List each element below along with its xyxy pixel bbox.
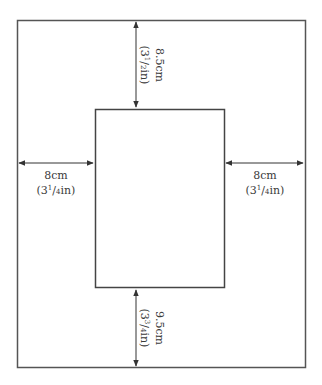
left-margin-label: 8cm (31/4in) (21, 168, 91, 198)
right-imperial: (31/4in) (230, 183, 300, 198)
top-imperial: (31/2in) (137, 30, 152, 100)
bottom-imperial: (33/4in) (137, 293, 152, 363)
right-margin-label: 8cm (31/4in) (230, 168, 300, 198)
left-metric: 8cm (21, 168, 91, 183)
bottom-margin-label: 9.5cm (33/4in) (137, 293, 167, 363)
margin-diagram: 8.5cm (31/2in) 9.5cm (33/4in) 8cm (31/4i… (0, 0, 322, 385)
top-margin-label: 8.5cm (31/2in) (137, 30, 167, 100)
bottom-metric: 9.5cm (152, 293, 167, 363)
right-metric: 8cm (230, 168, 300, 183)
inner-text-block (96, 110, 225, 288)
top-metric: 8.5cm (152, 30, 167, 100)
left-imperial: (31/4in) (21, 183, 91, 198)
